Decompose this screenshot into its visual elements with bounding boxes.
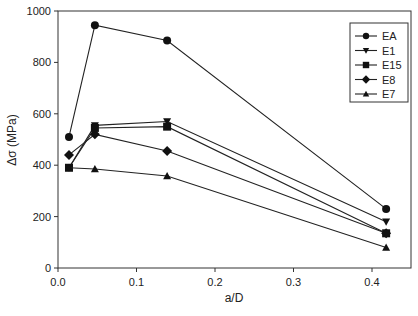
diamond-marker-icon bbox=[64, 150, 74, 160]
y-tick-label: 0 bbox=[45, 262, 51, 274]
y-tick-label: 600 bbox=[33, 108, 51, 120]
diamond-marker-icon bbox=[162, 146, 172, 156]
circle-marker-icon bbox=[382, 205, 390, 213]
circle-marker-icon bbox=[363, 33, 369, 39]
square-marker-icon bbox=[163, 123, 171, 131]
legend-label: E15 bbox=[382, 59, 402, 71]
circle-marker-icon bbox=[91, 21, 99, 29]
series-e15 bbox=[65, 123, 390, 238]
square-marker-icon bbox=[363, 62, 369, 68]
legend-label: EA bbox=[382, 30, 397, 42]
y-axis: 02004006008001000 bbox=[27, 5, 58, 274]
circle-marker-icon bbox=[65, 133, 73, 141]
series-e8 bbox=[64, 129, 391, 238]
series-line bbox=[69, 25, 386, 209]
x-tick-label: 0.4 bbox=[364, 276, 379, 288]
x-tick-label: 0.0 bbox=[50, 276, 65, 288]
y-tick-label: 1000 bbox=[27, 5, 51, 17]
y-axis-label: Δσ (MPa) bbox=[5, 114, 19, 165]
x-tick-label: 0.3 bbox=[286, 276, 301, 288]
y-tick-label: 200 bbox=[33, 211, 51, 223]
legend-label: E7 bbox=[382, 88, 395, 100]
series-layer bbox=[64, 21, 391, 251]
triangle-down-marker-icon bbox=[382, 219, 390, 226]
series-ea bbox=[65, 21, 390, 213]
series-e1 bbox=[65, 118, 390, 225]
series-line bbox=[69, 127, 386, 234]
legend: EAE1E15E8E7 bbox=[350, 23, 408, 102]
series-line bbox=[69, 168, 386, 248]
x-axis-label: a/D bbox=[225, 291, 244, 305]
x-tick-label: 0.2 bbox=[207, 276, 222, 288]
series-e7 bbox=[65, 164, 390, 251]
y-tick-label: 400 bbox=[33, 159, 51, 171]
y-tick-label: 800 bbox=[33, 56, 51, 68]
x-axis: 0.00.10.20.30.4 bbox=[50, 268, 379, 288]
line-chart: 02004006008001000 0.00.10.20.30.4 a/D Δσ… bbox=[0, 0, 418, 316]
x-tick-label: 0.1 bbox=[129, 276, 144, 288]
legend-label: E8 bbox=[382, 74, 395, 86]
legend-label: E1 bbox=[382, 45, 395, 57]
circle-marker-icon bbox=[163, 37, 171, 45]
